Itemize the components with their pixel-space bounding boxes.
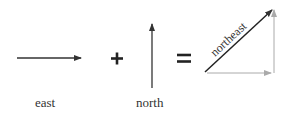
east-label: east bbox=[35, 95, 55, 111]
northeast-label: northeast bbox=[208, 19, 250, 60]
plus-icon bbox=[111, 53, 123, 65]
equals-icon bbox=[177, 55, 191, 62]
north-label: north bbox=[136, 95, 163, 111]
